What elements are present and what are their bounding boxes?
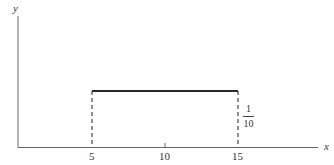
x-tick-label-5: 5	[89, 151, 95, 162]
chart-canvas	[0, 0, 334, 165]
height-annotation: 1 10	[243, 104, 254, 129]
x-tick-label-15: 15	[232, 151, 243, 162]
annotation-denominator: 10	[244, 119, 254, 129]
x-axis-label: x	[324, 141, 329, 152]
y-axis-label: y	[13, 3, 18, 14]
annotation-numerator: 1	[246, 104, 251, 114]
fraction-bar	[243, 116, 254, 117]
x-tick-label-10: 10	[159, 151, 170, 162]
